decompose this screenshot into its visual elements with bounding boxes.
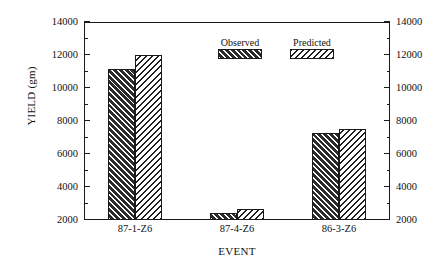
legend-entry-predicted: Predicted [290, 37, 334, 59]
y-axis-tick-label-left: 12000 [24, 50, 78, 61]
legend-swatch-predicted [290, 49, 334, 59]
bar-predicted-86-3-Z6 [339, 129, 366, 220]
legend-swatch-observed [218, 49, 262, 59]
bar-predicted-87-4-Z6 [237, 209, 264, 220]
y-axis-tick-label-left: 10000 [24, 83, 78, 94]
bar-predicted-87-1-Z6 [135, 55, 162, 220]
legend-label-predicted: Predicted [293, 37, 331, 48]
y-axis-tick-label-right: 2000 [396, 215, 430, 226]
bar-chart-figure: YIELD (gm) 20002000400040006000600080008… [0, 0, 430, 271]
x-axis-tick-label: 87-1-Z6 [95, 224, 175, 235]
y-axis-tick-label-left: 6000 [24, 149, 78, 160]
chart-legend: Observed Predicted [218, 37, 334, 59]
bar-observed-87-4-Z6 [210, 213, 237, 220]
x-axis-tick-label: 86-3-Z6 [299, 224, 379, 235]
y-axis-tick-label-left: 8000 [24, 116, 78, 127]
y-axis-tick-label-left: 4000 [24, 182, 78, 193]
y-axis-tick-label-right: 10000 [396, 83, 430, 94]
y-axis-tick-label-left: 14000 [24, 17, 78, 28]
legend-label-observed: Observed [221, 37, 259, 48]
y-axis-tick-label-right: 6000 [396, 149, 430, 160]
y-axis-tick-label-right: 12000 [396, 50, 430, 61]
x-axis-tick-label: 87-4-Z6 [197, 224, 277, 235]
y-axis-tick-label-right: 4000 [396, 182, 430, 193]
y-axis-tick-label-right: 14000 [396, 17, 430, 28]
y-axis-tick-label-right: 8000 [396, 116, 430, 127]
x-axis-title: EVENT [84, 245, 390, 257]
bar-observed-87-1-Z6 [108, 69, 135, 220]
y-axis-tick-label-left: 2000 [24, 215, 78, 226]
bar-observed-86-3-Z6 [312, 133, 339, 220]
legend-entry-observed: Observed [218, 37, 262, 59]
